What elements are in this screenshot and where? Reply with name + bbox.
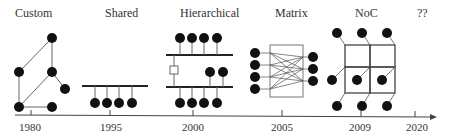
label-unknown: ??: [417, 6, 428, 20]
year-2009: 2009: [349, 121, 372, 133]
hierarchical-topology: [166, 33, 233, 108]
label-noc: NoC: [355, 6, 378, 20]
year-1980: 1980: [19, 121, 42, 133]
custom-topology: [14, 33, 70, 112]
label-custom: Custom: [15, 6, 53, 20]
noc-mesh-topology: [327, 28, 395, 111]
timeline-axis: [15, 110, 437, 120]
label-matrix: Matrix: [275, 6, 308, 20]
interconnect-timeline-diagram: Custom Shared Hierarchical Matrix NoC ??…: [0, 0, 453, 139]
year-2005: 2005: [271, 121, 294, 133]
label-hierarchical: Hierarchical: [180, 6, 240, 20]
matrix-crossbar-topology: [250, 45, 318, 97]
year-1995: 1995: [100, 121, 123, 133]
year-2000: 2000: [182, 121, 205, 133]
shared-bus-topology: [82, 86, 148, 108]
year-2020: 2020: [406, 121, 429, 133]
label-shared: Shared: [105, 6, 138, 20]
